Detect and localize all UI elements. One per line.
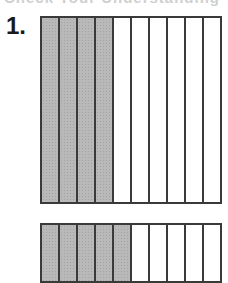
shaded-part [42,225,60,281]
unshaded-part [114,18,132,202]
shaded-part [96,225,114,281]
fraction-bar-2 [40,223,222,283]
shaded-part [60,225,78,281]
shaded-part [78,18,96,202]
unshaded-part [186,18,204,202]
unshaded-part [132,225,150,281]
unshaded-part [204,225,220,281]
shaded-part [42,18,60,202]
unshaded-part [150,18,168,202]
unshaded-part [132,18,150,202]
problem-number: 1. [6,14,26,38]
unshaded-part [204,18,220,202]
unshaded-part [168,225,186,281]
shaded-part [60,18,78,202]
unshaded-part [168,18,186,202]
unshaded-part [150,225,168,281]
shaded-part [96,18,114,202]
unshaded-part [186,225,204,281]
shaded-part [114,225,132,281]
fraction-bar-1 [40,16,222,204]
clipped-heading: Check Your Understanding [4,0,220,3]
shaded-part [78,225,96,281]
